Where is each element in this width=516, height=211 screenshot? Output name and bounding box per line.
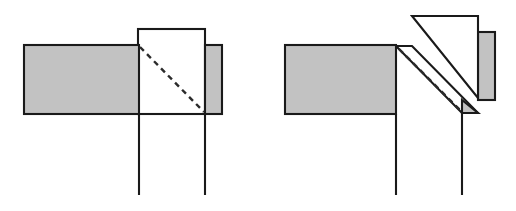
right-panel-horizontal-beam [285,45,396,114]
connection-detail-diagram [0,0,516,211]
left-panel-right-stub-beam [205,45,222,114]
right-panel-right-stub-beam [478,32,495,100]
left-panel-column-white-web [138,29,205,114]
left-panel-horizontal-beam [24,45,139,114]
figure-root: Beam to column connection detail compari… [0,0,516,211]
